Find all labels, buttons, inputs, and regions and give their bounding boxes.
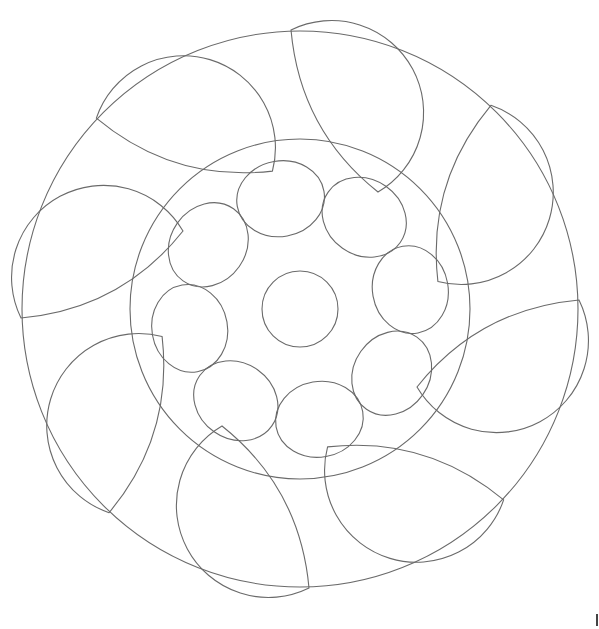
small-circle — [152, 187, 264, 302]
petal — [9, 304, 224, 519]
small-circles-group — [145, 154, 455, 464]
corner-mark — [596, 614, 598, 626]
petal — [90, 18, 305, 233]
small-circle — [231, 154, 331, 244]
mandala-drawing — [0, 0, 599, 629]
small-circle — [306, 161, 421, 273]
petal — [291, 21, 424, 192]
center-circle — [262, 271, 338, 347]
small-circle — [365, 240, 455, 340]
small-circle — [145, 278, 235, 378]
outer-circle — [22, 31, 578, 587]
small-circle — [269, 374, 369, 464]
inner-circle — [130, 139, 470, 479]
mandala-canvas — [0, 0, 599, 629]
small-circle — [178, 344, 293, 456]
petal — [376, 99, 591, 314]
petal — [12, 185, 183, 318]
petal — [295, 385, 510, 600]
petal — [417, 300, 588, 433]
small-circle — [335, 315, 447, 430]
petals-group — [9, 18, 592, 601]
petal — [176, 426, 309, 597]
